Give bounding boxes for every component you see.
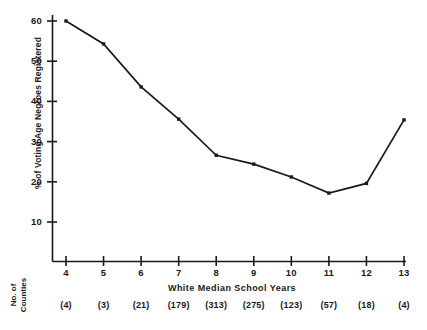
data-point-marker — [215, 154, 218, 157]
data-point-marker — [365, 182, 368, 185]
county-count-label: (275) — [234, 300, 274, 310]
data-point-marker — [64, 19, 67, 22]
county-count-label: (3) — [84, 300, 124, 310]
county-count-label: (313) — [196, 300, 236, 310]
county-count-label: (179) — [159, 300, 199, 310]
data-point-marker — [327, 191, 330, 194]
counts-axis-title-line2: Counties — [19, 264, 29, 326]
data-point-marker — [290, 175, 293, 178]
county-count-label: (4) — [46, 300, 86, 310]
county-count-label: (21) — [121, 300, 161, 310]
data-point-marker — [402, 118, 405, 121]
counts-axis-title: No. of Counties — [9, 264, 29, 326]
data-point-marker — [139, 85, 142, 88]
data-point-marker — [252, 162, 255, 165]
data-series-line — [66, 21, 404, 193]
county-count-label: (123) — [271, 300, 311, 310]
county-count-label: (18) — [346, 300, 386, 310]
x-axis-title: White Median School Years — [52, 283, 412, 293]
axes — [53, 15, 407, 262]
data-point-marker — [177, 117, 180, 120]
data-point-marker — [102, 42, 105, 45]
county-count-label: (4) — [384, 300, 424, 310]
counts-axis-title-line1: No. of — [9, 264, 19, 326]
data-point-markers — [64, 19, 405, 194]
county-count-label: (57) — [309, 300, 349, 310]
line-plot — [0, 0, 427, 330]
chart-figure: % of Voting Age Negroes Registered 10203… — [0, 0, 427, 330]
